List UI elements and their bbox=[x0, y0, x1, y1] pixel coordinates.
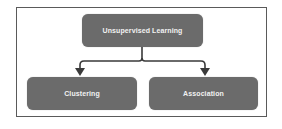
node-label: Association bbox=[183, 90, 224, 97]
node-unsupervised-learning: Unsupervised Learning bbox=[82, 14, 203, 47]
node-clustering: Clustering bbox=[27, 77, 137, 110]
node-association: Association bbox=[149, 77, 258, 110]
node-label: Clustering bbox=[64, 90, 100, 97]
node-label: Unsupervised Learning bbox=[103, 27, 183, 34]
